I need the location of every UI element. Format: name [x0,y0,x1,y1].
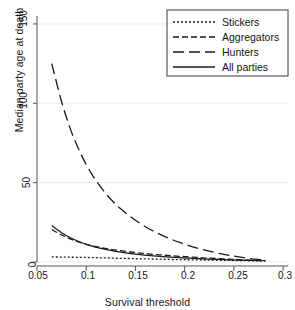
legend-label-aggregators: Aggregators [222,31,279,43]
line-chart-canvas: StickersAggregatorsHuntersAll parties [0,0,295,310]
x-tick-label-1: 0.1 [81,270,95,281]
x-axis-title: Survival threshold [0,296,295,308]
data-series-group [52,64,266,261]
x-tick-label-0: 0.05 [28,270,47,281]
legend-label-hunters: Hunters [222,46,259,58]
chart-legend: StickersAggregatorsHuntersAll parties [167,10,288,76]
x-tick-label-5: 0.3 [278,270,292,281]
y-tick-label-50: 50 [0,172,32,190]
legend-label-stickers: Stickers [222,16,259,28]
chart-figure: StickersAggregatorsHuntersAll parties 15… [0,0,295,310]
series-line-all-parties [52,226,266,261]
y-axis-title: Median party age at death [13,8,25,133]
x-tick-label-3: 0.2 [181,270,195,281]
y-axis-title-wrapper: Median party age at death [9,0,25,170]
x-tick-label-4: 0.25 [228,270,247,281]
series-line-hunters [52,64,266,260]
x-tick-label-2: 0.15 [128,270,147,281]
legend-label-all-parties: All parties [222,61,268,73]
